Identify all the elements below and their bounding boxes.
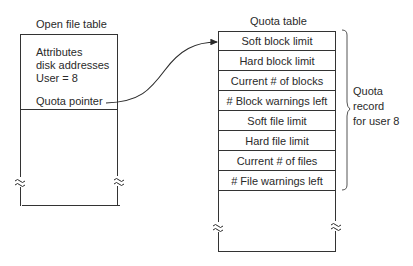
- diagram-overlay: [0, 0, 413, 266]
- quota-pointer-arrow: [106, 42, 217, 103]
- break-icon: [213, 224, 341, 232]
- break-icon: [15, 179, 124, 187]
- curly-brace-icon: [342, 30, 350, 190]
